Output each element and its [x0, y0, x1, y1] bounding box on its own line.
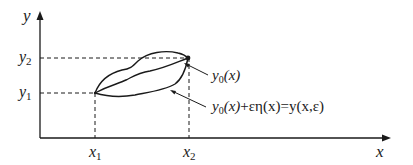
y1-label: y1 [17, 83, 32, 102]
y2-label: y2 [17, 48, 32, 67]
endpoint-dot-1 [94, 92, 96, 94]
y-axis-arrow-icon [37, 11, 44, 20]
pointer-varied-arrow-icon [170, 90, 176, 95]
y-axis-label: y [21, 6, 31, 25]
x1-label: x1 [88, 143, 102, 162]
varied-label: y0(x)+εη(x)=y(x,ε) [210, 98, 324, 116]
x2-label: x2 [182, 143, 196, 162]
pointers [172, 64, 208, 107]
x-axis-label: x [375, 142, 384, 161]
extremal-label: y0(x) [210, 67, 240, 85]
guide-lines [40, 58, 189, 138]
variational-diagram: y x y2 y1 x1 x2 y0(x) y0(x)+εη(x)=y(x,ε) [0, 0, 413, 165]
x-axis-arrow-icon [382, 135, 391, 142]
endpoint-dot-2 [186, 56, 191, 61]
